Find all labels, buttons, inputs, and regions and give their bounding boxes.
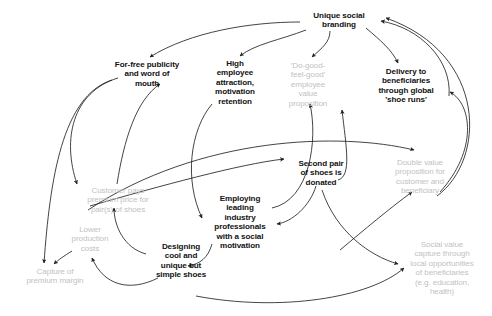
node-social-value-capture: Social value capture through local oppor… bbox=[396, 240, 488, 296]
edge-second-pair-to-social-value bbox=[322, 190, 398, 264]
node-second-pair-donated: Second pair of shoes is donated bbox=[288, 159, 354, 187]
node-lower-production-costs: Lower production costs bbox=[64, 225, 116, 253]
node-do-good-feel-good: 'Do-good- feel-good' employee value prop… bbox=[277, 61, 339, 108]
node-designing-cool-shoes: Designing cool and unique but simple sho… bbox=[148, 242, 214, 280]
node-capture-of-premium-margin: Capture of premium margin bbox=[14, 267, 96, 286]
node-unique-social-branding: Unique social branding bbox=[302, 11, 376, 30]
node-high-employee-attraction: High employee attraction, motivation ret… bbox=[204, 59, 266, 106]
node-customer-pays-premium: Customer pays premium price for pair(s) … bbox=[73, 186, 163, 214]
node-delivery-to-beneficiaries: Delivery to beneficiaries through global… bbox=[368, 67, 444, 105]
node-double-value-proposition: Double value proposition for customer an… bbox=[380, 158, 460, 196]
edge-publicity-to-customer-pays bbox=[71, 78, 118, 184]
diagram-canvas: Unique social brandingFor-free publicity… bbox=[0, 0, 492, 316]
edge-customer-pays-to-publicity bbox=[117, 84, 160, 184]
edge-designing-to-social-value bbox=[196, 268, 404, 303]
node-for-free-publicity: For-free publicity and word of mouth bbox=[108, 60, 186, 88]
edge-branding-to-publicity bbox=[150, 22, 300, 57]
node-employing-leading-professionals: Employing leading industry professionals… bbox=[206, 194, 274, 250]
edge-branding-to-high-employee bbox=[240, 30, 306, 56]
edge-second-pair-to-employing bbox=[277, 186, 316, 224]
edge-employing-to-do-good bbox=[272, 104, 313, 208]
edge-designing-to-customer-pays bbox=[114, 208, 146, 254]
edge-branding-to-delivery bbox=[366, 28, 398, 63]
edge-branding-to-do-good bbox=[312, 31, 330, 57]
